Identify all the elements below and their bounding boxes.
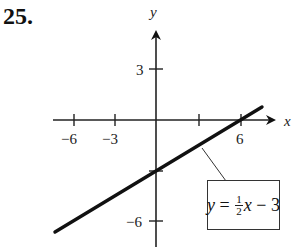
eq-rest: − 3 bbox=[256, 195, 280, 216]
eq-numerator: 1 bbox=[235, 194, 243, 206]
annotation-leader bbox=[202, 148, 226, 181]
y-axis-label: y bbox=[148, 4, 157, 20]
eq-lhs: y bbox=[207, 195, 215, 216]
eq-denominator: 2 bbox=[236, 206, 242, 217]
x-tick-label-neg6: −6 bbox=[61, 131, 77, 147]
x-axis-label: x bbox=[283, 113, 291, 129]
x-tick-label-6: 6 bbox=[236, 131, 244, 147]
eq-equals: = bbox=[220, 195, 230, 216]
x-tick-label-neg3: −3 bbox=[102, 131, 118, 147]
y-tick-label-neg6: −6 bbox=[126, 214, 142, 230]
equation-label: y = 12x − 3 bbox=[207, 180, 280, 230]
eq-fraction: 12 bbox=[235, 194, 243, 217]
eq-var: x bbox=[244, 195, 252, 216]
y-tick-label-3: 3 bbox=[136, 62, 144, 78]
